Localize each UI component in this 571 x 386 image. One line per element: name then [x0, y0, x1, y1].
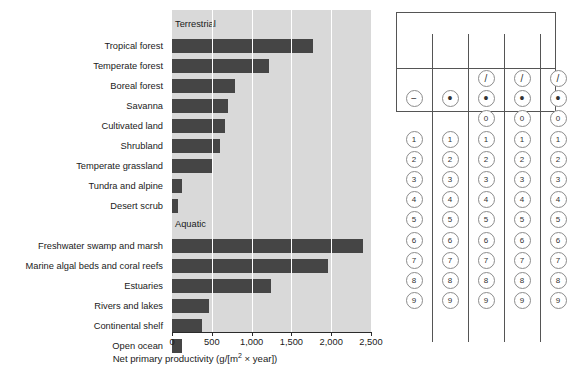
bubble-digit-4[interactable]: 4 [406, 191, 423, 208]
bubble-digit-7[interactable]: 7 [514, 252, 531, 269]
gridline [252, 10, 253, 332]
answer-grid-column-4[interactable]: /•0123456789 [504, 12, 540, 312]
bubble-digit-6[interactable]: 6 [406, 232, 423, 249]
bubble-decimal-point[interactable]: • [442, 90, 459, 107]
bubble-digit-8[interactable]: 8 [442, 272, 459, 289]
bubble-digit-6[interactable]: 6 [514, 232, 531, 249]
bar-row [172, 296, 371, 316]
bubble-digit-7[interactable]: 7 [406, 252, 423, 269]
bubble-digit-4[interactable]: 4 [478, 191, 495, 208]
bubble-digit-6[interactable]: 6 [442, 232, 459, 249]
bubble-decimal-point[interactable]: • [478, 90, 495, 107]
section-label-aquatic: Aquatic [175, 219, 206, 229]
bubble-digit-7[interactable]: 7 [478, 252, 495, 269]
bar-row [172, 196, 371, 216]
bubble-digit-2[interactable]: 2 [442, 151, 459, 168]
bubble-digit-9[interactable]: 9 [514, 292, 531, 309]
bubble-digit-8[interactable]: 8 [550, 272, 567, 289]
bubble-digit-7[interactable]: 7 [550, 252, 567, 269]
bubble-slot-empty [442, 110, 459, 127]
x-tick-label: 2,500 [359, 337, 382, 347]
bubble-digit-3[interactable]: 3 [442, 171, 459, 188]
bubble-minus-sign[interactable]: − [406, 90, 423, 107]
bubble-digit-1[interactable]: 1 [514, 131, 531, 148]
category-label: Tundra and alpine [0, 176, 167, 196]
bubble-digit-1[interactable]: 1 [478, 131, 495, 148]
bubble-digit-8[interactable]: 8 [514, 272, 531, 289]
bubble-digit-9[interactable]: 9 [406, 292, 423, 309]
bubble-digit-4[interactable]: 4 [514, 191, 531, 208]
category-label-column: TerrestrialTropical forestTemperate fore… [0, 16, 167, 356]
bar [172, 99, 228, 113]
bubble-digit-8[interactable]: 8 [478, 272, 495, 289]
bubble-digit-3[interactable]: 3 [406, 171, 423, 188]
gridline [371, 10, 372, 332]
bubble-digit-5[interactable]: 5 [442, 211, 459, 228]
bar-row [172, 76, 371, 96]
bubble-digit-5[interactable]: 5 [406, 211, 423, 228]
bubble-digit-7[interactable]: 7 [442, 252, 459, 269]
bubble-digit-2[interactable]: 2 [406, 151, 423, 168]
bubble-digit-4[interactable]: 4 [550, 191, 567, 208]
category-label: Marine algal beds and coral reefs [0, 256, 167, 276]
bubble-digit-1[interactable]: 1 [550, 131, 567, 148]
bar [172, 319, 202, 333]
gridline [212, 10, 213, 332]
answer-grid-column-2[interactable]: •123456789 [432, 12, 468, 312]
bubble-digit-4[interactable]: 4 [442, 191, 459, 208]
answer-grid-column-5[interactable]: /•0123456789 [540, 12, 571, 312]
bubble-digit-3[interactable]: 3 [550, 171, 567, 188]
bubble-digit-1[interactable]: 1 [406, 131, 423, 148]
bubble-digit-9[interactable]: 9 [550, 292, 567, 309]
bar [172, 199, 178, 213]
bar-row [172, 156, 371, 176]
bubble-digit-0[interactable]: 0 [514, 110, 531, 127]
bubble-fraction-slash[interactable]: / [514, 70, 531, 87]
category-label: Boreal forest [0, 76, 167, 96]
bubble-digit-1[interactable]: 1 [442, 131, 459, 148]
bubble-digit-3[interactable]: 3 [514, 171, 531, 188]
answer-grid-column-3[interactable]: /•0123456789 [468, 12, 504, 312]
bubble-digit-8[interactable]: 8 [406, 272, 423, 289]
answer-grid[interactable]: −123456789•123456789/•0123456789/•012345… [396, 12, 564, 342]
bar [172, 119, 225, 133]
x-tick-label: 1,500 [280, 337, 303, 347]
category-label: Temperate forest [0, 56, 167, 76]
bubble-digit-2[interactable]: 2 [514, 151, 531, 168]
bubble-digit-6[interactable]: 6 [478, 232, 495, 249]
bubble-digit-9[interactable]: 9 [478, 292, 495, 309]
bubble-digit-0[interactable]: 0 [550, 110, 567, 127]
bubble-digit-2[interactable]: 2 [478, 151, 495, 168]
answer-grid-column-1[interactable]: −123456789 [396, 12, 432, 312]
bubble-digit-0[interactable]: 0 [478, 110, 495, 127]
bar-series: TerrestrialAquatic [172, 10, 371, 332]
category-label: Freshwater swamp and marsh [0, 236, 167, 256]
bubble-digit-3[interactable]: 3 [478, 171, 495, 188]
bar [172, 59, 269, 73]
bubble-fraction-slash[interactable]: / [550, 70, 567, 87]
category-label: Cultivated land [0, 116, 167, 136]
x-tick-label: 1,000 [240, 337, 263, 347]
bubble-digit-5[interactable]: 5 [514, 211, 531, 228]
x-tick [331, 332, 332, 336]
x-tick-label: 0 [169, 337, 174, 347]
bubble-decimal-point[interactable]: • [514, 90, 531, 107]
bubble-decimal-point[interactable]: • [550, 90, 567, 107]
bar-row [172, 176, 371, 196]
bubble-digit-6[interactable]: 6 [550, 232, 567, 249]
bar-row [172, 96, 371, 116]
bubble-digit-9[interactable]: 9 [442, 292, 459, 309]
x-tick-label: 2,000 [320, 337, 343, 347]
gridline [331, 10, 332, 332]
bubble-slot-empty [406, 110, 423, 127]
x-tick [291, 332, 292, 336]
bubble-fraction-slash[interactable]: / [478, 70, 495, 87]
plot-area: TerrestrialAquatic [172, 10, 371, 332]
net-primary-productivity-bar-chart: TerrestrialTropical forestTemperate fore… [0, 0, 390, 386]
bar-row [172, 56, 371, 76]
bubble-digit-5[interactable]: 5 [550, 211, 567, 228]
bubble-slot-empty [442, 70, 459, 87]
bubble-digit-2[interactable]: 2 [550, 151, 567, 168]
x-axis-line [172, 332, 372, 333]
bubble-digit-5[interactable]: 5 [478, 211, 495, 228]
